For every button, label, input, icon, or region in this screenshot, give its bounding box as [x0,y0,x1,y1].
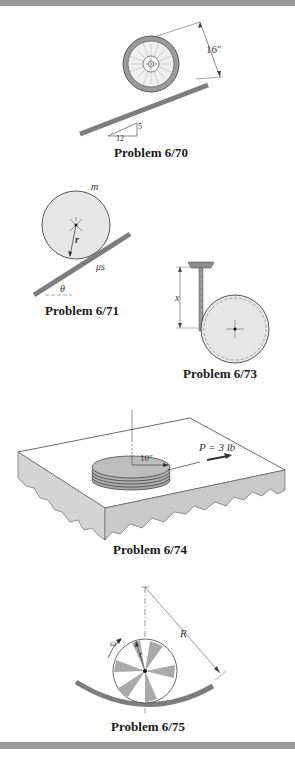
incline-bar [80,85,208,134]
label-6-75-large-radius: R [180,627,187,639]
caption-6-73: Problem 6/73 [183,366,257,382]
label-6-70-slope-rise: 5 [138,122,142,131]
label-6-71-mass: m [91,181,98,192]
figure-6-73 [176,262,269,363]
label-6-70-slope-run: 12 [116,134,124,143]
label-6-70-dimension: 16″ [206,43,222,55]
label-6-71-angle: θ [60,283,65,294]
caption-6-74: Problem 6/74 [113,542,187,558]
figure-6-70 [80,22,222,136]
figure-6-71 [34,191,130,295]
label-6-71-radius: r [75,234,79,245]
figure-6-74 [18,410,285,540]
ceiling-support [188,262,214,268]
label-6-71-friction: μs [96,261,105,272]
label-6-73-distance: x [175,292,179,303]
figure-6-75 [76,587,226,713]
label-6-75-small-radius: r [139,650,142,659]
caption-6-75: Problem 6/75 [111,719,185,735]
caption-6-70: Problem 6/70 [114,145,188,161]
plate-stack [92,456,170,490]
caption-6-71: Problem 6/71 [45,303,119,319]
label-6-75-omega: ω [110,638,116,648]
label-6-74-force: P = 3 lb [199,441,235,453]
label-6-74-radius: 10″ [140,453,153,463]
